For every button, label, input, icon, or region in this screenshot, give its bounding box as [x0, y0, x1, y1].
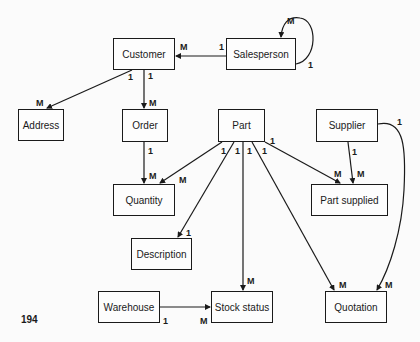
card-quotation-part-m: M: [339, 281, 347, 290]
entity-part: Part: [218, 109, 265, 142]
entity-salesperson: Salesperson: [226, 38, 296, 70]
card-stock-warehouse-m: M: [200, 317, 208, 326]
entity-supplier: Supplier: [316, 109, 378, 142]
card-description-1: 1: [186, 229, 191, 238]
card-supplier-quotation-1: 1: [397, 118, 402, 127]
card-partsupplied-supplier-m: M: [357, 170, 365, 179]
entity-address: Address: [18, 109, 64, 141]
card-salesperson-self-m: M: [287, 17, 295, 26]
page-number: 194: [21, 314, 38, 325]
card-stock-part-m: M: [247, 277, 255, 286]
card-supplier-partsupplied-1: 1: [352, 148, 357, 157]
card-order-quantity-1: 1: [148, 147, 153, 156]
card-salesperson-customer-1: 1: [219, 43, 224, 52]
card-part-quantity-1: 1: [221, 147, 226, 156]
card-warehouse-stock-1: 1: [163, 317, 168, 326]
card-order-m: M: [149, 99, 157, 108]
card-part-description-1: 1: [235, 147, 240, 156]
card-customer-order-1: 1: [148, 72, 153, 81]
entity-quotation: Quotation: [325, 291, 387, 323]
card-address-m: M: [36, 99, 44, 108]
card-customer-salesperson-m: M: [180, 43, 188, 52]
card-part-quotation-1: 1: [262, 147, 267, 156]
card-part-partsupplied-1: 1: [270, 137, 275, 146]
card-partsupplied-part-m: M: [334, 170, 342, 179]
entity-stock-status: Stock status: [211, 291, 273, 323]
entity-warehouse: Warehouse: [98, 291, 160, 323]
card-quantity-part-m: M: [179, 176, 187, 185]
card-salesperson-self-1: 1: [308, 61, 313, 70]
entity-order: Order: [122, 109, 168, 142]
entity-relationship-diagram: Customer Salesperson Address Order Part …: [0, 0, 420, 342]
card-part-stock-1: 1: [247, 147, 252, 156]
card-customer-address-1: 1: [128, 73, 133, 82]
card-quotation-supplier-m: M: [385, 281, 393, 290]
entity-quantity: Quantity: [113, 184, 175, 216]
card-quantity-order-m: M: [149, 172, 157, 181]
entity-customer: Customer: [113, 38, 175, 70]
entity-part-supplied: Part supplied: [311, 184, 388, 216]
entity-description: Description: [131, 238, 192, 270]
